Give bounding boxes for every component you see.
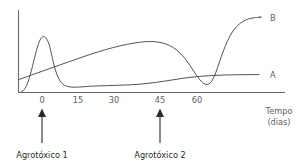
x-tick-label-30: 30 [109, 95, 119, 105]
x-tick-label-15: 15 [73, 95, 83, 105]
x-tick-label-45: 45 [155, 95, 165, 105]
annotation-1-label: Agrotóxico 1 [16, 150, 67, 160]
x-axis-title-line1: Tempo [265, 106, 293, 116]
up-arrow-icon [38, 109, 46, 118]
series-a-label: A [270, 70, 276, 80]
x-tick-label-0: 0 [39, 95, 44, 105]
x-axis-title-line2: (dias) [267, 117, 290, 127]
chart-canvas: A B 0 15 30 45 60 Tempo (dias) Agrotóxic… [0, 0, 306, 168]
annotation-agrotoxico-1: Agrotóxico 1 [16, 109, 67, 161]
series-b-curve [19, 17, 261, 84]
series-b-label: B [270, 13, 276, 23]
annotation-agrotoxico-2: Agrotóxico 2 [134, 109, 185, 161]
annotation-2-label: Agrotóxico 2 [134, 150, 185, 160]
chart-axes [18, 10, 285, 93]
series-b-group: B [19, 13, 276, 85]
pesticide-population-chart: A B 0 15 30 45 60 Tempo (dias) Agrotóxic… [0, 0, 306, 168]
up-arrow-icon [156, 109, 164, 118]
x-axis-title: Tempo (dias) [265, 106, 293, 127]
x-tick-labels: 0 15 30 45 60 [39, 95, 202, 105]
series-a-group: A [22, 37, 277, 92]
series-a-curve [22, 37, 260, 92]
x-tick-label-60: 60 [192, 95, 202, 105]
